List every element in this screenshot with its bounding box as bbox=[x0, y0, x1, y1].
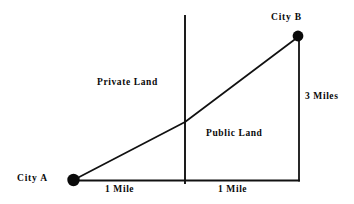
public-land-label: Public Land bbox=[206, 129, 263, 139]
horizontal-right-distance-label: 1 Mile bbox=[218, 185, 247, 195]
land-parcel-diagram: City A City B Private Land Public Land 3… bbox=[0, 0, 354, 204]
diagram-canvas bbox=[0, 0, 354, 204]
vertical-distance-label: 3 Miles bbox=[305, 92, 338, 102]
horizontal-left-distance-label: 1 Mile bbox=[105, 185, 134, 195]
diagram-background bbox=[0, 0, 354, 204]
city-b-dot-marker bbox=[293, 31, 304, 42]
city-b-label: City B bbox=[271, 13, 302, 23]
city-a-label: City A bbox=[17, 174, 48, 184]
private-land-label: Private Land bbox=[97, 78, 158, 88]
city-a-dot-marker bbox=[67, 174, 79, 186]
